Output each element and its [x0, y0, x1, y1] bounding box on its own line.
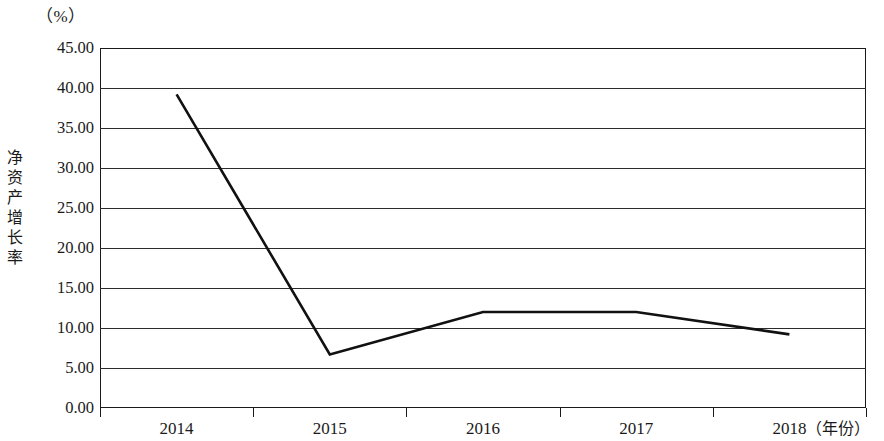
- y-axis-tick-label: 5.00: [28, 360, 94, 376]
- y-axis-tick-label: 10.00: [28, 320, 94, 336]
- net-asset-growth-rate-line-chart: （%） 净资产增长率 45.0040.0035.0030.0025.0020.0…: [0, 0, 884, 441]
- x-axis-tick: [253, 408, 254, 417]
- x-axis-tick-label: 2015: [313, 419, 347, 439]
- y-axis-tick-label: 35.00: [28, 120, 94, 136]
- plot-area: [100, 48, 866, 408]
- x-axis-tick-label: 2018: [772, 419, 806, 439]
- y-axis-tick-label: 0.00: [28, 400, 94, 416]
- y-axis-tick-label: 40.00: [28, 80, 94, 96]
- x-axis-tick: [406, 408, 407, 417]
- y-axis-tick-label: 30.00: [28, 160, 94, 176]
- x-axis-tick-label: 2014: [160, 419, 194, 439]
- x-axis-title: （年份）: [806, 419, 870, 439]
- x-axis-tick-label: 2016: [466, 419, 500, 439]
- x-axis-tick: [713, 408, 714, 417]
- y-axis-tick-label: 20.00: [28, 240, 94, 256]
- y-axis-tick-label: 45.00: [28, 40, 94, 56]
- y-axis-tick-label: 15.00: [28, 280, 94, 296]
- data-series-line: [100, 48, 866, 408]
- y-axis-tick-labels: 45.0040.0035.0030.0025.0020.0015.0010.00…: [28, 0, 94, 441]
- x-axis-tick: [560, 408, 561, 417]
- series-polyline: [177, 94, 790, 354]
- x-axis-tick: [100, 408, 101, 417]
- x-axis-tick-label: 2017: [619, 419, 653, 439]
- y-axis-title: 净资产增长率: [4, 148, 26, 268]
- x-axis-tick: [866, 408, 867, 417]
- y-axis-tick-label: 25.00: [28, 200, 94, 216]
